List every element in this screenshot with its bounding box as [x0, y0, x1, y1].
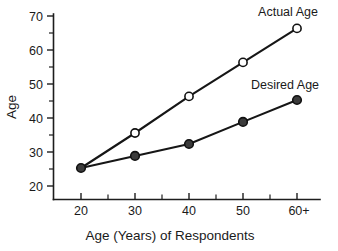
series-label-desired-age: Desired Age — [251, 78, 319, 92]
data-point-actual-60plus — [293, 24, 301, 32]
data-point-actual-30 — [131, 129, 139, 137]
x-tick-label: 50 — [236, 204, 250, 218]
line-chart: 70 60 50 40 30 20 20 30 40 50 — [0, 0, 338, 251]
data-point-actual-40 — [185, 92, 193, 100]
y-tick-label: 60 — [29, 44, 43, 58]
y-tick-label: 70 — [29, 10, 43, 24]
data-point-desired-60plus — [293, 96, 302, 105]
y-tick-label: 40 — [29, 112, 43, 126]
y-axis-title: Age — [4, 95, 19, 119]
y-tick-label: 20 — [29, 180, 43, 194]
data-point-desired-50 — [239, 118, 248, 127]
series-label-actual-age: Actual Age — [258, 5, 318, 19]
y-tick-label: 30 — [29, 146, 43, 160]
data-point-desired-30 — [131, 152, 140, 161]
x-tick-label: 30 — [128, 204, 142, 218]
x-tick-label: 40 — [182, 204, 196, 218]
data-point-desired-40 — [185, 140, 194, 149]
chart-background — [0, 0, 338, 251]
data-point-shared-20 — [77, 164, 86, 173]
x-axis-title: Age (Years) of Respondents — [85, 228, 254, 243]
chart-container: 70 60 50 40 30 20 20 30 40 50 — [0, 0, 338, 251]
data-point-actual-50 — [239, 58, 247, 66]
x-tick-label: 20 — [74, 204, 88, 218]
y-tick-label: 50 — [29, 78, 43, 92]
x-tick-label: 60+ — [288, 204, 309, 218]
